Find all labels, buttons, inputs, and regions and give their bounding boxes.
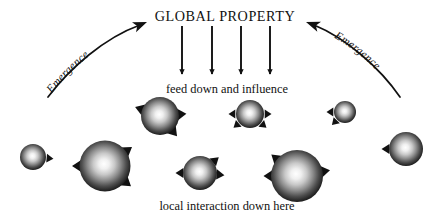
page-title: GLOBAL PROPERTY [155, 8, 295, 24]
sphere-7-body [334, 101, 356, 123]
sphere-4-body [183, 156, 217, 190]
emergence-diagram: GLOBAL PROPERTY Emergence Emergence feed… [0, 0, 445, 217]
sphere-6-body [271, 150, 323, 202]
sphere-2-body [80, 141, 131, 192]
sphere-1-body [20, 144, 46, 170]
local-interaction-label: local interaction down here [159, 199, 295, 213]
diagram-canvas: GLOBAL PROPERTY Emergence Emergence feed… [0, 0, 445, 217]
sphere-8-body [389, 132, 423, 166]
background [0, 0, 445, 217]
sphere-5-body [236, 100, 264, 128]
feed-down-label: feed down and influence [166, 82, 289, 96]
sphere-3-body [141, 97, 179, 135]
